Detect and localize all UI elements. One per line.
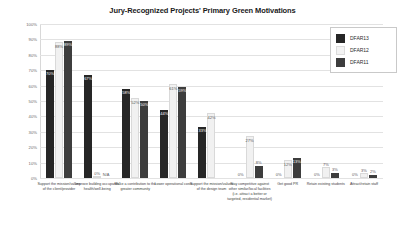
bar-value-label: 0% xyxy=(276,173,282,177)
bar-slot: 61% xyxy=(169,24,177,178)
bar[interactable]: 42% xyxy=(207,113,215,178)
bar-value-label: 8% xyxy=(256,161,262,165)
bar-group: 0%27%8% xyxy=(231,24,269,178)
legend-label: DFAR11 xyxy=(350,59,369,65)
bar-value-label: 0% xyxy=(314,173,320,177)
y-axis-tick-label: 60% xyxy=(29,83,37,88)
bar-value-label: 3% xyxy=(361,169,367,173)
y-axis-tick-label: 20% xyxy=(29,145,37,150)
bar-slot: 52% xyxy=(131,24,139,178)
bar[interactable]: 13% xyxy=(293,158,301,178)
chart-legend: DFAR13 DFAR12 DFAR11 xyxy=(330,27,397,73)
bar-value-label: 27% xyxy=(246,139,254,143)
bar-slot: N/A xyxy=(102,24,110,178)
bar[interactable]: 12% xyxy=(284,160,292,178)
bar[interactable]: 44% xyxy=(160,110,168,178)
bar-slot: 44% xyxy=(160,24,168,178)
bar-slot: 0% xyxy=(237,24,245,178)
bar-value-label: 3% xyxy=(332,168,338,172)
bar[interactable]: 3% xyxy=(360,173,368,178)
bar-slot: 27% xyxy=(246,24,254,178)
bar-value-label: 0% xyxy=(352,173,358,177)
chart-title: Jury-Recognized Projects' Primary Green … xyxy=(0,6,405,15)
bar-value-label: 59% xyxy=(178,89,186,93)
bar-value-label: 2% xyxy=(370,170,376,174)
bar-slot: 67% xyxy=(84,24,92,178)
bar[interactable]: 58% xyxy=(122,89,130,178)
y-axis-tick-label: 90% xyxy=(29,37,37,42)
bar-group: 33%42% xyxy=(192,24,230,178)
legend-label: DFAR12 xyxy=(350,47,369,53)
bar-value-label: 58% xyxy=(122,91,130,95)
y-axis-tick-label: 30% xyxy=(29,129,37,134)
bar-value-label: 88% xyxy=(55,45,63,49)
bar-slot: 0% xyxy=(275,24,283,178)
legend-item-dfar12[interactable]: DFAR12 xyxy=(336,44,391,56)
bar-slot xyxy=(216,24,224,178)
bar-group: 58%52%50% xyxy=(116,24,154,178)
bar[interactable]: 67% xyxy=(84,75,92,178)
bar-slot: 88% xyxy=(55,24,63,178)
legend-item-dfar11[interactable]: DFAR11 xyxy=(336,56,391,68)
bar-group: 0%12%13% xyxy=(269,24,307,178)
bar[interactable]: 88% xyxy=(55,42,63,178)
legend-swatch-icon xyxy=(336,34,345,43)
bar-group: 44%61%59% xyxy=(154,24,192,178)
bar-slot: 0% xyxy=(313,24,321,178)
bar-value-label: 50% xyxy=(140,103,148,107)
y-axis-tick-label: 10% xyxy=(29,160,37,165)
chart-page: Jury-Recognized Projects' Primary Green … xyxy=(0,0,405,237)
bar[interactable]: 8% xyxy=(255,166,263,178)
bar-slot: 59% xyxy=(178,24,186,178)
bar-slot: 12% xyxy=(284,24,292,178)
y-axis-tick-label: 100% xyxy=(26,22,37,27)
bar-group: 67%0%N/A xyxy=(78,24,116,178)
y-axis-tick-label: 50% xyxy=(29,99,37,104)
bar[interactable]: 61% xyxy=(169,84,177,178)
bar-group: 70%88%89% xyxy=(40,24,78,178)
legend-item-dfar13[interactable]: DFAR13 xyxy=(336,32,391,44)
y-axis-tick-label: 80% xyxy=(29,52,37,57)
bar-value-label: 61% xyxy=(169,87,177,91)
bar-slot: 7% xyxy=(322,24,330,178)
bar-value-label: 42% xyxy=(207,116,215,120)
bar[interactable]: 33% xyxy=(198,127,206,178)
bar-value-label: 44% xyxy=(160,112,168,116)
bar[interactable]: 27% xyxy=(246,136,254,178)
bar[interactable]: 89% xyxy=(64,41,72,178)
bar[interactable]: 3% xyxy=(331,173,339,178)
bar-slot: 42% xyxy=(207,24,215,178)
bar-slot: 8% xyxy=(255,24,263,178)
y-axis-tick-label: 40% xyxy=(29,114,37,119)
bar[interactable]: 52% xyxy=(131,98,139,178)
bar-slot: 50% xyxy=(140,24,148,178)
bar[interactable]: 7% xyxy=(322,167,330,178)
gridline xyxy=(40,178,383,179)
bar-slot: 33% xyxy=(198,24,206,178)
bar-value-label: 13% xyxy=(293,160,301,164)
bar-value-label: N/A xyxy=(103,173,110,177)
bar-value-label: 52% xyxy=(131,101,139,105)
bar-value-label: 67% xyxy=(84,77,92,81)
bar-value-label: 33% xyxy=(198,129,206,133)
bar-slot: 89% xyxy=(64,24,72,178)
bar[interactable]: 2% xyxy=(369,175,377,178)
bar[interactable]: 0% xyxy=(93,176,101,178)
bar-slot: 13% xyxy=(293,24,301,178)
bar[interactable]: 59% xyxy=(178,87,186,178)
bar[interactable]: 50% xyxy=(140,101,148,178)
bar-value-label: 12% xyxy=(284,163,292,167)
bar[interactable]: 70% xyxy=(46,70,54,178)
x-axis-category-label: Attract/retain staff xyxy=(341,182,387,187)
bar-value-label: 0% xyxy=(238,173,244,177)
bar-slot: 0% xyxy=(93,24,101,178)
bar-value-label: 70% xyxy=(46,72,54,76)
bar-slot: 70% xyxy=(46,24,54,178)
bar-value-label: 0% xyxy=(94,172,100,176)
legend-swatch-icon xyxy=(336,58,345,67)
y-axis-tick-label: 70% xyxy=(29,68,37,73)
legend-swatch-icon xyxy=(336,46,345,55)
bar-value-label: 89% xyxy=(64,43,72,47)
legend-label: DFAR13 xyxy=(350,35,369,41)
bar-value-label: 7% xyxy=(323,163,329,167)
